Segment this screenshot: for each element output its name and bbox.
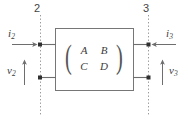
voltage-arrow-left [22, 59, 27, 85]
matrix-grid: A B C D [74, 42, 114, 74]
terminal-dot-bottom-right [147, 76, 151, 80]
current-right-label: i3 [166, 28, 173, 41]
current-left-label: i2 [8, 28, 15, 41]
port-left-number: 2 [34, 3, 40, 14]
matrix-cell-b: B [101, 44, 108, 56]
current-left-subscript: 2 [11, 32, 15, 41]
matrix-cell-c: C [80, 60, 87, 72]
matrix-open-paren: ( [65, 44, 72, 71]
matrix-cell-a: A [81, 44, 88, 56]
current-right-subscript: 3 [169, 32, 173, 41]
current-arrow-left [12, 42, 38, 47]
voltage-right-label: v3 [169, 65, 178, 78]
port-right-number: 3 [143, 3, 149, 14]
terminal-dot-bottom-left [38, 76, 42, 80]
matrix-close-paren: ) [116, 44, 123, 71]
terminal-dot-top-right [147, 43, 151, 47]
matrix-cell-d: D [100, 60, 108, 72]
abcd-matrix: ( A B C D ) [66, 42, 122, 74]
voltage-left-subscript: 2 [12, 69, 16, 78]
voltage-left-label: v2 [7, 65, 16, 78]
terminal-dot-top-left [38, 43, 42, 47]
voltage-arrow-right [160, 59, 165, 85]
voltage-right-subscript: 3 [174, 69, 178, 78]
current-arrow-right [151, 42, 176, 47]
two-port-network-diagram: 2 3 i2 i3 v2 v3 ( A B C D ) [0, 0, 188, 124]
